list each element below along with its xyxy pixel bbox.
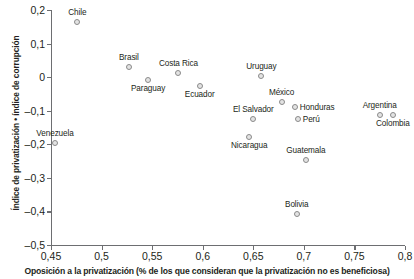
scatter-chart: Índice de privatización • índice de corr… — [0, 0, 414, 279]
data-point[interactable] — [145, 77, 151, 83]
y-tick — [47, 178, 51, 179]
data-point-label: Costa Rica — [159, 59, 198, 68]
y-axis-line — [51, 10, 52, 246]
x-tick-label: 0,6 — [183, 250, 223, 262]
data-point[interactable] — [303, 157, 309, 163]
data-point-label: Perú — [303, 114, 320, 123]
data-point-label: Paraguay — [131, 84, 165, 93]
data-point[interactable] — [294, 211, 300, 217]
x-axis-line — [51, 245, 405, 246]
y-tick-label: 0 — [1, 71, 45, 83]
y-tick — [47, 44, 51, 45]
y-tick — [47, 144, 51, 145]
data-point-label: Nicaragua — [231, 141, 267, 150]
y-tick — [47, 211, 51, 212]
x-axis-title: Oposición a la privatización (% de los q… — [0, 266, 414, 276]
data-point[interactable] — [295, 116, 301, 122]
data-point-label: México — [269, 88, 294, 97]
y-tick-label: –0,1 — [1, 105, 45, 117]
data-point-label: Argentina — [363, 101, 397, 110]
y-tick — [47, 10, 51, 11]
data-point-label: Colombia — [376, 119, 410, 128]
x-tick-label: 0,45 — [31, 250, 71, 262]
y-tick-label: 0,1 — [1, 38, 45, 50]
data-point-label: Chile — [68, 8, 86, 17]
data-point-label: Guatemala — [286, 146, 325, 155]
y-tick-label: –0,3 — [1, 172, 45, 184]
data-point[interactable] — [279, 99, 285, 105]
data-point[interactable] — [197, 83, 203, 89]
data-point[interactable] — [246, 134, 252, 140]
y-tick-label: –0,4 — [1, 205, 45, 217]
x-tick-label: 0,7 — [284, 250, 324, 262]
data-point-label: Bolivia — [285, 200, 308, 209]
y-tick — [47, 77, 51, 78]
x-tick-label: 0,55 — [132, 250, 172, 262]
data-point[interactable] — [175, 70, 181, 76]
x-tick-label: 0,8 — [385, 250, 414, 262]
data-point-label: Honduras — [300, 103, 335, 112]
data-point-label: Ecuador — [185, 90, 215, 99]
data-point[interactable] — [390, 112, 396, 118]
data-point[interactable] — [258, 73, 264, 79]
y-tick — [47, 111, 51, 112]
y-tick-label: 0,2 — [1, 4, 45, 16]
data-point-label: Venezuela — [36, 129, 73, 138]
data-point[interactable] — [74, 19, 80, 25]
data-point-label: Uruguay — [246, 62, 276, 71]
data-point[interactable] — [250, 116, 256, 122]
data-point[interactable] — [52, 140, 58, 146]
x-tick-label: 0,65 — [233, 250, 273, 262]
x-tick-label: 0,5 — [82, 250, 122, 262]
data-point[interactable] — [292, 104, 298, 110]
y-tick-label: –0,2 — [1, 138, 45, 150]
data-point-label: El Salvador — [233, 105, 274, 114]
data-point-label: Brasil — [119, 53, 139, 62]
data-point[interactable] — [126, 64, 132, 70]
data-point[interactable] — [377, 112, 383, 118]
x-tick-label: 0,75 — [334, 250, 374, 262]
